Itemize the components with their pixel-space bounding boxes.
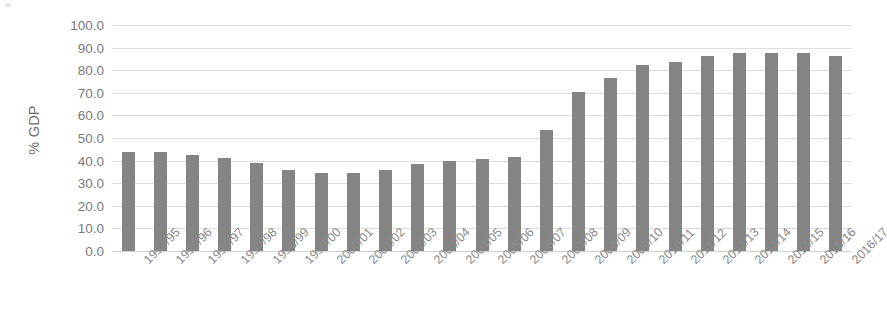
bar[interactable] xyxy=(765,53,778,251)
x-axis-tick-label: 2006/07 xyxy=(527,257,537,267)
bar[interactable] xyxy=(604,78,617,251)
bar-chart: % GDP 100.090.080.070.060.050.040.030.02… xyxy=(0,0,887,321)
y-axis-tick-label: 40.0 xyxy=(78,153,104,168)
x-axis-tick-label: 1994/95 xyxy=(141,257,151,267)
y-axis-tick-label: 100.0 xyxy=(70,18,104,33)
y-axis-tick-label: 30.0 xyxy=(78,176,104,191)
x-axis-tick-label: 2001/02 xyxy=(366,257,376,267)
x-axis-tick-label: 2004/05 xyxy=(463,257,473,267)
bar[interactable] xyxy=(829,56,842,251)
plot-area xyxy=(112,25,852,251)
bar[interactable] xyxy=(636,65,649,251)
y-axis-tick-label: 50.0 xyxy=(78,131,104,146)
scan-artifact xyxy=(5,3,11,7)
bar[interactable] xyxy=(733,53,746,251)
x-axis-tick-label: 2012/13 xyxy=(720,257,730,267)
x-axis-tick-label: 2010/11 xyxy=(656,257,666,267)
x-axis-tick-label: 2016/17 xyxy=(849,257,859,267)
x-axis-tick-label: 2005/06 xyxy=(495,257,505,267)
x-axis-tick-label: 1997/98 xyxy=(238,257,248,267)
y-axis-tick-label: 90.0 xyxy=(78,40,104,55)
bar[interactable] xyxy=(572,92,585,251)
x-axis-tick-label: 2003/04 xyxy=(431,257,441,267)
bar[interactable] xyxy=(122,152,135,251)
x-axis-tick-label: 2011/12 xyxy=(688,257,698,267)
x-axis-tick-labels: 1994/951995/961996/971997/981998/991999/… xyxy=(112,251,852,321)
bar[interactable] xyxy=(669,62,682,251)
x-axis-tick-label: 2013/14 xyxy=(752,257,762,267)
x-axis-tick-label: 2007/08 xyxy=(559,257,569,267)
y-axis-tick-label: 70.0 xyxy=(78,85,104,100)
x-axis-tick-label: 2015/16 xyxy=(817,257,827,267)
bar[interactable] xyxy=(701,56,714,251)
x-axis-tick-label: 2000/01 xyxy=(334,257,344,267)
y-axis-tick-label: 10.0 xyxy=(78,221,104,236)
x-axis-tick-label: 1996/97 xyxy=(205,257,215,267)
y-axis-tick-label: 0.0 xyxy=(85,244,104,259)
x-axis-tick-label: 2008/09 xyxy=(592,257,602,267)
y-axis-title-label: % GDP xyxy=(26,105,42,154)
y-axis-tick-label: 20.0 xyxy=(78,198,104,213)
x-axis-tick-label: 2014/15 xyxy=(785,257,795,267)
x-axis-tick-label: 1999/00 xyxy=(302,257,312,267)
x-axis-tick-label: 1995/96 xyxy=(173,257,183,267)
x-axis-tick-label: 1998/99 xyxy=(270,257,280,267)
y-axis-tick-labels: 100.090.080.070.060.050.040.030.020.010.… xyxy=(48,0,110,260)
bar-series xyxy=(112,25,852,251)
bar[interactable] xyxy=(797,53,810,251)
x-axis-tick-label: 2009/10 xyxy=(624,257,634,267)
x-axis-tick-label: 2002/03 xyxy=(398,257,408,267)
y-axis-tick-label: 60.0 xyxy=(78,108,104,123)
y-axis-tick-label: 80.0 xyxy=(78,63,104,78)
